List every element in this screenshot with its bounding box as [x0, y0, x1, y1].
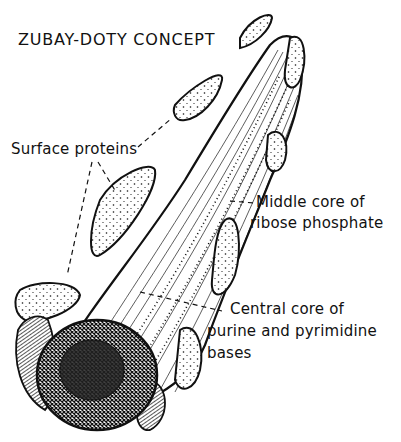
label-middle-core-line1: Middle core of: [256, 193, 365, 212]
zubay-doty-diagram: ZUBAY-DOTY CONCEPT Surface proteins Midd…: [0, 0, 401, 442]
label-central-core-line3: bases: [207, 344, 252, 363]
diagram-title: ZUBAY-DOTY CONCEPT: [18, 30, 215, 49]
label-central-core-line1: Central core of: [230, 300, 344, 319]
label-middle-core-line2: ribose phosphate: [250, 214, 383, 233]
label-surface-proteins: Surface proteins: [11, 140, 137, 159]
label-central-core-line2: purine and pyrimidine: [207, 322, 377, 341]
